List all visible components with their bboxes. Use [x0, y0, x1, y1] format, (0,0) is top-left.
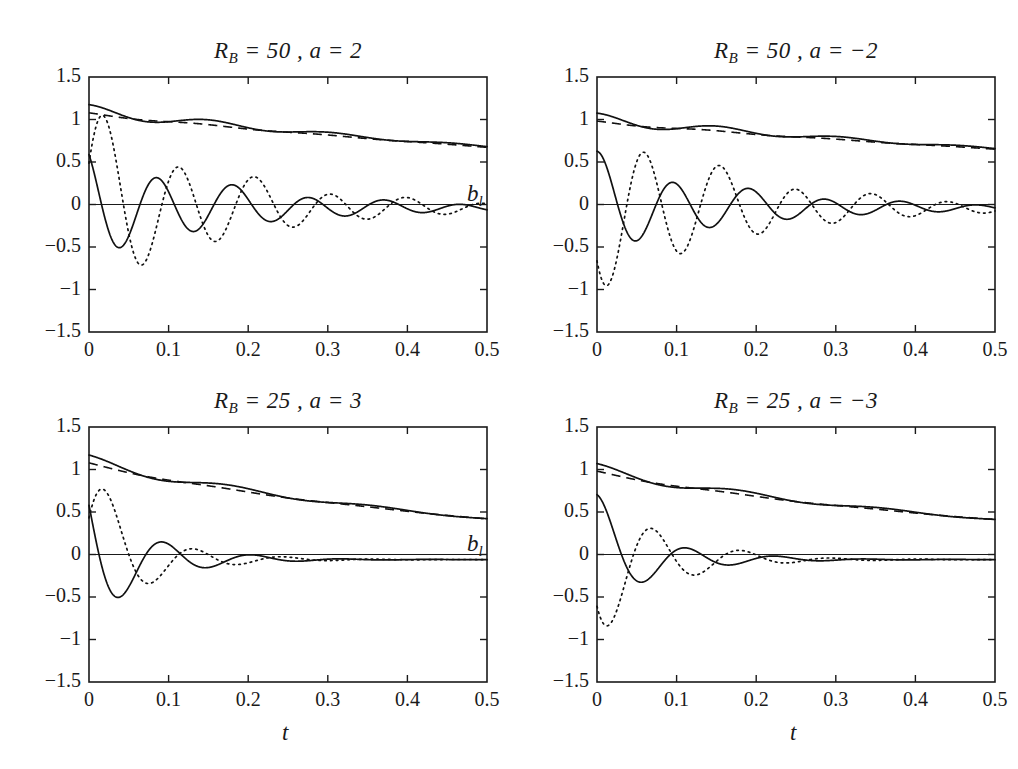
x-tick-label: 0.3: [796, 688, 876, 711]
panel-title-top-right: RB = 50 , a = −2: [597, 38, 995, 67]
title-equals-2: =: [822, 38, 851, 63]
axes-frame-top-left: [89, 77, 487, 332]
x-tick-label: 0.5: [447, 338, 527, 361]
y-tick-label: −0.5: [519, 584, 589, 607]
y-tick-label: 1.5: [11, 64, 81, 87]
y-tick-label: 0.5: [519, 499, 589, 522]
envelope-solid-curve-bottom-right: [597, 464, 995, 520]
x-tick-label: 0.5: [955, 688, 1018, 711]
title-comma: ,: [791, 388, 810, 413]
plot-area-top-right: [0, 0, 1018, 769]
plot-area-bottom-right: [0, 0, 1018, 769]
envelope-dashed-curve-bottom-right: [597, 471, 995, 519]
figure-canvas: RB = 50 , a = 21.510.50−0.5−1−1.500.10.2…: [0, 0, 1018, 769]
x-tick-label: 0: [49, 688, 129, 711]
y-axis-label-symbol: b: [467, 181, 479, 206]
oscillation-solid-curve-bottom-right: [597, 495, 995, 583]
panel-title-top-left: RB = 50 , a = 2: [89, 38, 487, 67]
y-tick-label: 1.5: [11, 414, 81, 437]
y-tick-label: 0: [11, 192, 81, 215]
x-tick-label: 0.4: [875, 688, 955, 711]
y-axis-label-subscript: l: [479, 541, 483, 558]
title-subscript-B: B: [728, 399, 738, 416]
title-equals-2: =: [322, 388, 351, 413]
title-symbol-R: R: [714, 388, 729, 413]
plot-area-top-left: [0, 0, 1018, 769]
y-tick-label: 1: [11, 107, 81, 130]
x-tick-label: 0.1: [129, 688, 209, 711]
title-comma: ,: [291, 38, 310, 63]
y-tick-label: 1: [519, 107, 589, 130]
y-tick-label: 0.5: [519, 149, 589, 172]
y-tick-label: 1.5: [519, 414, 589, 437]
panel-title-bottom-left: RB = 25 , a = 3: [89, 388, 487, 417]
title-a-value: 2: [350, 38, 362, 63]
x-tick-label: 0.1: [637, 688, 717, 711]
title-subscript-B: B: [728, 49, 738, 66]
y-axis-label-top-right: bl: [467, 181, 483, 210]
y-tick-label: 0.5: [11, 149, 81, 172]
title-symbol-a: a: [810, 38, 822, 63]
plot-area-bottom-left: [0, 0, 1018, 769]
title-symbol-a: a: [810, 388, 822, 413]
oscillation-solid-curve-top-left: [89, 155, 487, 248]
title-symbol-R: R: [214, 388, 229, 413]
title-symbol-a: a: [310, 38, 322, 63]
y-tick-label: −1: [519, 277, 589, 300]
title-comma: ,: [291, 388, 310, 413]
oscillation-solid-curve-bottom-left: [89, 505, 487, 597]
x-tick-label: 0.3: [288, 338, 368, 361]
title-subscript-B: B: [228, 49, 238, 66]
envelope-solid-curve-top-left: [89, 105, 487, 147]
x-tick-label: 0.2: [716, 338, 796, 361]
title-rb-value: 50: [767, 38, 791, 63]
y-tick-label: 0: [11, 542, 81, 565]
title-rb-value: 25: [767, 388, 791, 413]
x-tick-label: 0.2: [208, 338, 288, 361]
x-tick-label: 0.4: [875, 338, 955, 361]
x-axis-label-bottom-right: t: [790, 720, 796, 746]
envelope-dashed-curve-top-left: [89, 113, 487, 148]
y-tick-label: 0: [519, 542, 589, 565]
envelope-solid-curve-bottom-left: [89, 455, 487, 519]
title-a-value: −3: [850, 388, 878, 413]
oscillation-dotted-curve-top-right: [597, 152, 995, 285]
y-tick-label: −1: [11, 627, 81, 650]
title-a-value: 3: [350, 388, 362, 413]
x-axis-label-bottom-left: t: [282, 720, 288, 746]
x-tick-label: 0.5: [447, 688, 527, 711]
title-equals-2: =: [822, 388, 851, 413]
x-tick-label: 0.2: [716, 688, 796, 711]
x-tick-label: 0.3: [796, 338, 876, 361]
oscillation-dotted-curve-top-left: [89, 115, 487, 265]
envelope-dashed-curve-top-right: [597, 121, 995, 149]
envelope-solid-curve-top-right: [597, 113, 995, 148]
x-tick-label: 0.5: [955, 338, 1018, 361]
x-tick-label: 0.2: [208, 688, 288, 711]
y-tick-label: 1: [11, 457, 81, 480]
x-tick-label: 0.4: [367, 338, 447, 361]
y-tick-label: −1: [519, 627, 589, 650]
title-equals-2: =: [322, 38, 351, 63]
x-tick-label: 0: [557, 688, 637, 711]
y-tick-label: −0.5: [11, 234, 81, 257]
y-axis-label-subscript: l: [479, 191, 483, 208]
title-symbol-R: R: [714, 38, 729, 63]
x-tick-label: 0.1: [129, 338, 209, 361]
y-tick-label: −1: [11, 277, 81, 300]
title-equals-1: =: [238, 38, 267, 63]
title-rb-value: 25: [267, 388, 291, 413]
y-axis-label-symbol: b: [467, 531, 479, 556]
y-axis-label-bottom-right: bl: [467, 531, 483, 560]
title-symbol-a: a: [310, 388, 322, 413]
oscillation-dotted-curve-bottom-right: [597, 528, 995, 626]
title-symbol-R: R: [214, 38, 229, 63]
title-rb-value: 50: [267, 38, 291, 63]
x-tick-label: 0.3: [288, 688, 368, 711]
axes-frame-bottom-right: [597, 427, 995, 682]
axes-frame-bottom-left: [89, 427, 487, 682]
x-tick-label: 0.1: [637, 338, 717, 361]
y-tick-label: 1: [519, 457, 589, 480]
x-tick-label: 0: [557, 338, 637, 361]
title-subscript-B: B: [228, 399, 238, 416]
